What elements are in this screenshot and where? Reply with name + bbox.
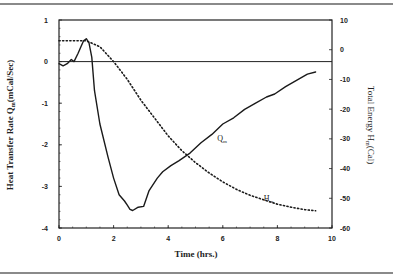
y2-tick-label: -30 bbox=[340, 135, 350, 142]
axis-ticks: 024681010-1-2-3-4100-10-20-30-40-50-60 bbox=[42, 17, 350, 243]
y-tick-label: -4 bbox=[42, 225, 48, 232]
series-layer bbox=[59, 39, 316, 211]
series-q-m bbox=[59, 39, 316, 211]
y2-tick-label: 10 bbox=[340, 17, 348, 24]
x-axis-title: Time (hrs.) bbox=[175, 249, 218, 259]
x-tick-label: 10 bbox=[328, 235, 336, 242]
y2-tick-label: 0 bbox=[340, 46, 344, 53]
y2-tick-label: -20 bbox=[340, 106, 350, 113]
x-tick-label: 4 bbox=[166, 235, 170, 242]
x-tick-label: 6 bbox=[221, 235, 225, 242]
svg-text:Heat Transfer Rate Qm(mCal/Se: Heat Transfer Rate Qm(mCal/Sec) bbox=[5, 60, 16, 191]
y-tick-label: -3 bbox=[42, 183, 48, 190]
series-label-h: Hm bbox=[264, 194, 274, 204]
series-h-m bbox=[59, 41, 316, 211]
y-tick-label: -2 bbox=[42, 141, 48, 148]
y2-tick-label: -10 bbox=[340, 76, 350, 83]
y-tick-label: 1 bbox=[44, 17, 48, 24]
y2-tick-label: -60 bbox=[340, 225, 350, 232]
x-tick-label: 8 bbox=[275, 235, 279, 242]
y-tick-label: -1 bbox=[42, 100, 48, 107]
series-label-q: Qm bbox=[217, 134, 227, 144]
y2-tick-label: -50 bbox=[340, 195, 350, 202]
x-tick-label: 0 bbox=[57, 235, 61, 242]
x-tick-label: 2 bbox=[112, 235, 116, 242]
y-axis-title-left: Heat Transfer Rate Qm(mCal/Sec) bbox=[5, 60, 16, 191]
y2-tick-label: -40 bbox=[340, 165, 350, 172]
chart: 024681010-1-2-3-4100-10-20-30-40-50-60 T… bbox=[0, 0, 393, 280]
svg-text:Total Energy Hm(Cal): Total Energy Hm(Cal) bbox=[365, 86, 376, 164]
y-axis-title-right: Total Energy Hm(Cal) bbox=[365, 86, 376, 164]
y-tick-label: 0 bbox=[44, 58, 48, 65]
